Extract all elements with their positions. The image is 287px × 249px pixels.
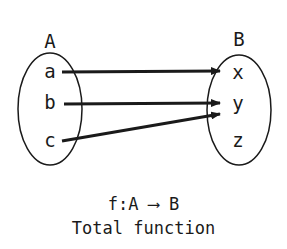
diagram-title: Total function bbox=[0, 218, 287, 238]
arrow-b-to-y bbox=[64, 103, 220, 104]
element-b: b bbox=[44, 91, 55, 113]
function-notation: f:A ⟶ B bbox=[0, 194, 287, 214]
element-z: z bbox=[232, 129, 243, 151]
arrow-c-to-y bbox=[62, 114, 220, 141]
element-x: x bbox=[232, 61, 243, 83]
element-c: c bbox=[44, 129, 55, 151]
set-b-label: B bbox=[233, 28, 244, 50]
element-y: y bbox=[232, 92, 243, 114]
arrow-a-to-x bbox=[62, 71, 220, 72]
set-a-label: A bbox=[44, 30, 56, 52]
element-a: a bbox=[44, 60, 55, 82]
